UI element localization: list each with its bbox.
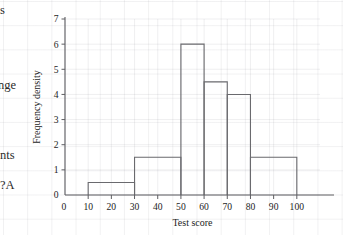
y-tick-label: 2 [54,139,59,150]
x-tick-label: 70 [222,201,232,212]
x-tick-label: 30 [130,201,140,212]
y-axis-title: Frequency density [31,70,42,144]
page-canvas: s nge nts A? 01234567 010203040506070809… [0,0,343,235]
y-tick-label: 5 [54,64,59,75]
y-tick-label: 4 [54,89,59,100]
histogram-bar [204,82,227,195]
y-tick-label: 7 [54,13,59,24]
y-tick-label: 6 [54,39,59,50]
x-tick-label: 0 [62,201,67,212]
y-tick-label: 3 [54,114,59,125]
histogram-chart: 01234567 0102030405060708090100 Test sco… [0,0,343,235]
y-tick-label: 0 [54,189,59,200]
x-axis-tick-labels: 0102030405060708090100 [62,201,305,212]
x-tick-label: 50 [176,201,186,212]
x-tick-label: 20 [107,201,117,212]
x-tick-label: 40 [153,201,163,212]
x-tick-label: 60 [199,201,209,212]
histogram-svg: 01234567 0102030405060708090100 Test sco… [0,0,343,235]
y-axis-tick-labels: 01234567 [54,13,59,200]
x-tick-label: 90 [269,201,279,212]
y-tick-label: 1 [54,164,59,175]
x-axis-title: Test score [172,217,213,228]
chart-gridlines [65,19,320,195]
x-axis-ticks [88,195,297,199]
x-tick-label: 80 [246,201,256,212]
x-tick-label: 10 [83,201,93,212]
x-tick-label: 100 [290,201,305,212]
